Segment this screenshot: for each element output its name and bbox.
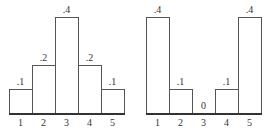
x-tick-label: 1 [146, 118, 169, 128]
bar-value-label: .1 [215, 77, 238, 87]
bar-4 [215, 89, 239, 114]
right-histogram: .41.1203.14.45 [0, 0, 264, 131]
bar-1 [146, 17, 170, 114]
bar-value-label: .1 [169, 77, 192, 87]
x-tick-label: 3 [192, 118, 215, 128]
bar-5 [238, 17, 262, 114]
bar-2 [169, 89, 193, 114]
bar-value-label: .4 [238, 5, 261, 15]
bar-value-label: .4 [146, 5, 169, 15]
x-axis-line [146, 113, 262, 115]
x-tick-label: 4 [215, 118, 238, 128]
bar-value-label: 0 [192, 101, 215, 111]
x-tick-label: 5 [238, 118, 261, 128]
x-tick-label: 2 [169, 118, 192, 128]
